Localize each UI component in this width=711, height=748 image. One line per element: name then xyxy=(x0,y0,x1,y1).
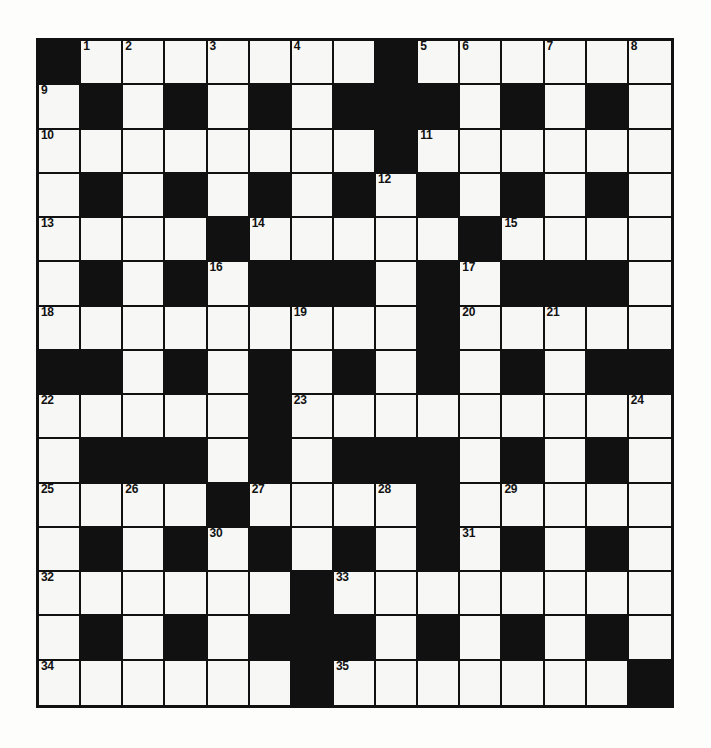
grid-open-cell[interactable] xyxy=(165,307,207,351)
grid-open-cell[interactable]: 5 xyxy=(418,41,460,85)
grid-open-cell[interactable] xyxy=(292,218,334,262)
grid-open-cell[interactable]: 29 xyxy=(502,484,544,528)
grid-open-cell[interactable] xyxy=(629,130,671,174)
grid-open-cell[interactable] xyxy=(376,262,418,306)
grid-open-cell[interactable] xyxy=(502,130,544,174)
grid-open-cell[interactable]: 25 xyxy=(39,484,81,528)
grid-open-cell[interactable] xyxy=(502,661,544,705)
grid-open-cell[interactable]: 22 xyxy=(39,395,81,439)
grid-open-cell[interactable] xyxy=(334,307,376,351)
grid-open-cell[interactable]: 2 xyxy=(123,41,165,85)
grid-open-cell[interactable] xyxy=(165,218,207,262)
grid-open-cell[interactable]: 33 xyxy=(334,572,376,616)
grid-open-cell[interactable] xyxy=(334,484,376,528)
grid-open-cell[interactable] xyxy=(123,395,165,439)
grid-open-cell[interactable] xyxy=(460,395,502,439)
grid-open-cell[interactable] xyxy=(39,262,81,306)
grid-open-cell[interactable] xyxy=(123,307,165,351)
grid-open-cell[interactable] xyxy=(629,307,671,351)
grid-open-cell[interactable] xyxy=(460,130,502,174)
grid-open-cell[interactable] xyxy=(165,41,207,85)
grid-open-cell[interactable]: 20 xyxy=(460,307,502,351)
grid-open-cell[interactable] xyxy=(629,85,671,129)
grid-open-cell[interactable] xyxy=(292,174,334,218)
grid-open-cell[interactable] xyxy=(629,572,671,616)
grid-open-cell[interactable] xyxy=(292,85,334,129)
grid-open-cell[interactable] xyxy=(250,661,292,705)
grid-open-cell[interactable] xyxy=(81,572,123,616)
grid-open-cell[interactable] xyxy=(39,616,81,660)
grid-open-cell[interactable] xyxy=(460,484,502,528)
grid-open-cell[interactable] xyxy=(292,351,334,395)
grid-open-cell[interactable] xyxy=(208,85,250,129)
grid-open-cell[interactable]: 32 xyxy=(39,572,81,616)
grid-open-cell[interactable] xyxy=(123,85,165,129)
grid-open-cell[interactable] xyxy=(123,218,165,262)
grid-open-cell[interactable] xyxy=(81,130,123,174)
grid-open-cell[interactable] xyxy=(81,218,123,262)
grid-open-cell[interactable] xyxy=(208,439,250,483)
grid-open-cell[interactable] xyxy=(292,130,334,174)
grid-open-cell[interactable]: 12 xyxy=(376,174,418,218)
grid-open-cell[interactable] xyxy=(587,572,629,616)
grid-open-cell[interactable] xyxy=(208,130,250,174)
grid-open-cell[interactable]: 4 xyxy=(292,41,334,85)
grid-open-cell[interactable] xyxy=(165,572,207,616)
grid-open-cell[interactable] xyxy=(208,661,250,705)
grid-open-cell[interactable] xyxy=(460,351,502,395)
grid-open-cell[interactable] xyxy=(545,395,587,439)
grid-open-cell[interactable] xyxy=(208,174,250,218)
grid-open-cell[interactable] xyxy=(81,307,123,351)
grid-open-cell[interactable]: 13 xyxy=(39,218,81,262)
grid-open-cell[interactable] xyxy=(587,661,629,705)
grid-open-cell[interactable] xyxy=(376,351,418,395)
grid-open-cell[interactable] xyxy=(587,130,629,174)
grid-open-cell[interactable] xyxy=(334,41,376,85)
grid-open-cell[interactable] xyxy=(123,130,165,174)
grid-open-cell[interactable] xyxy=(545,218,587,262)
grid-open-cell[interactable] xyxy=(629,528,671,572)
grid-open-cell[interactable]: 35 xyxy=(334,661,376,705)
grid-open-cell[interactable] xyxy=(39,439,81,483)
grid-open-cell[interactable] xyxy=(460,661,502,705)
grid-open-cell[interactable] xyxy=(502,395,544,439)
grid-open-cell[interactable]: 26 xyxy=(123,484,165,528)
grid-open-cell[interactable] xyxy=(123,616,165,660)
grid-open-cell[interactable]: 11 xyxy=(418,130,460,174)
grid-open-cell[interactable]: 15 xyxy=(502,218,544,262)
grid-open-cell[interactable] xyxy=(250,41,292,85)
grid-open-cell[interactable] xyxy=(587,395,629,439)
grid-open-cell[interactable] xyxy=(545,174,587,218)
grid-open-cell[interactable] xyxy=(123,528,165,572)
grid-open-cell[interactable] xyxy=(334,395,376,439)
grid-open-cell[interactable] xyxy=(629,439,671,483)
grid-open-cell[interactable] xyxy=(587,41,629,85)
grid-open-cell[interactable] xyxy=(460,174,502,218)
grid-open-cell[interactable] xyxy=(629,484,671,528)
grid-open-cell[interactable] xyxy=(165,130,207,174)
grid-open-cell[interactable] xyxy=(250,572,292,616)
grid-open-cell[interactable]: 16 xyxy=(208,262,250,306)
grid-open-cell[interactable] xyxy=(81,661,123,705)
grid-open-cell[interactable] xyxy=(545,439,587,483)
grid-open-cell[interactable] xyxy=(292,484,334,528)
grid-open-cell[interactable]: 1 xyxy=(81,41,123,85)
grid-open-cell[interactable] xyxy=(460,616,502,660)
grid-open-cell[interactable] xyxy=(208,395,250,439)
grid-open-cell[interactable] xyxy=(376,572,418,616)
grid-open-cell[interactable] xyxy=(376,218,418,262)
grid-open-cell[interactable]: 27 xyxy=(250,484,292,528)
grid-open-cell[interactable] xyxy=(123,572,165,616)
grid-open-cell[interactable] xyxy=(460,439,502,483)
grid-open-cell[interactable] xyxy=(587,218,629,262)
grid-open-cell[interactable]: 14 xyxy=(250,218,292,262)
grid-open-cell[interactable] xyxy=(292,439,334,483)
grid-open-cell[interactable] xyxy=(334,218,376,262)
grid-open-cell[interactable] xyxy=(545,572,587,616)
grid-open-cell[interactable] xyxy=(250,130,292,174)
grid-open-cell[interactable]: 18 xyxy=(39,307,81,351)
grid-open-cell[interactable] xyxy=(545,661,587,705)
grid-open-cell[interactable] xyxy=(250,307,292,351)
grid-open-cell[interactable]: 21 xyxy=(545,307,587,351)
grid-open-cell[interactable]: 30 xyxy=(208,528,250,572)
